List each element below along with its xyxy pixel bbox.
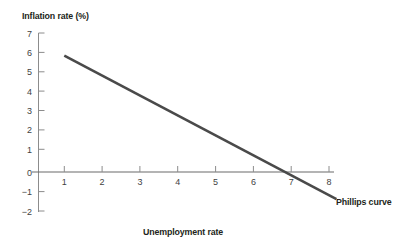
y-tick-label: 1: [27, 145, 32, 155]
x-tick-label: 8: [326, 177, 331, 187]
x-axis-tick-labels: 1 2 3 4 5 6 7 8: [62, 177, 332, 187]
y-tick-label: 5: [27, 67, 32, 77]
y-tick-label: 2: [27, 125, 32, 135]
y-tick-label: 4: [27, 87, 32, 97]
x-tick-label: 7: [289, 177, 294, 187]
y-tick-label: 7: [27, 29, 32, 39]
x-tick-label: 3: [137, 177, 142, 187]
x-tick-label: 4: [175, 177, 180, 187]
x-tick-label: 5: [213, 177, 218, 187]
y-axis-title: Inflation rate (%): [22, 10, 89, 21]
x-axis-ticks: [64, 166, 329, 172]
x-tick-label: 1: [62, 177, 67, 187]
y-axis-ticks: [39, 33, 45, 211]
phillips-curve-line: [64, 56, 336, 199]
y-tick-label: 6: [27, 48, 32, 58]
phillips-curve-label: Phillips curve: [336, 196, 392, 207]
phillips-curve-chart: 7 6 5 4 3 2 1 0 −1 −2 1 2 3 4: [0, 0, 405, 245]
y-tick-label: 0: [27, 168, 32, 178]
x-tick-label: 6: [251, 177, 256, 187]
x-tick-label: 2: [100, 177, 105, 187]
y-axis-tick-labels: 7 6 5 4 3 2 1 0 −1 −2: [22, 29, 32, 217]
y-tick-label: 3: [27, 106, 32, 116]
x-axis-title: Unemployment rate: [143, 226, 223, 237]
y-tick-label: −1: [22, 187, 32, 197]
y-tick-label: −2: [22, 207, 32, 217]
chart-plot-area: 7 6 5 4 3 2 1 0 −1 −2 1 2 3 4: [0, 0, 405, 245]
